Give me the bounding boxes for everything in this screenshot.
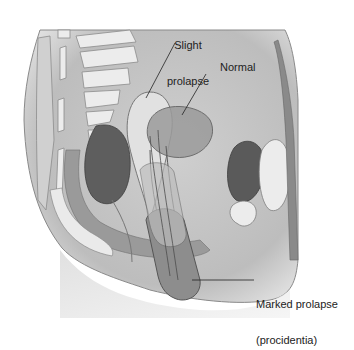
label-slight-line2: prolapse: [152, 75, 224, 87]
label-marked-line2: (procidentia): [256, 334, 338, 346]
label-marked-prolapse: Marked prolapse (procidentia): [256, 274, 338, 350]
rectum: [85, 125, 130, 204]
label-marked-line1: Marked prolapse: [256, 298, 338, 310]
pubic-bone: [259, 140, 290, 211]
label-normal: Normal: [220, 61, 255, 73]
label-slight-prolapse: Slight prolapse: [152, 15, 224, 99]
uterus-normal: [147, 106, 212, 157]
label-slight-line1: Slight: [152, 39, 224, 51]
